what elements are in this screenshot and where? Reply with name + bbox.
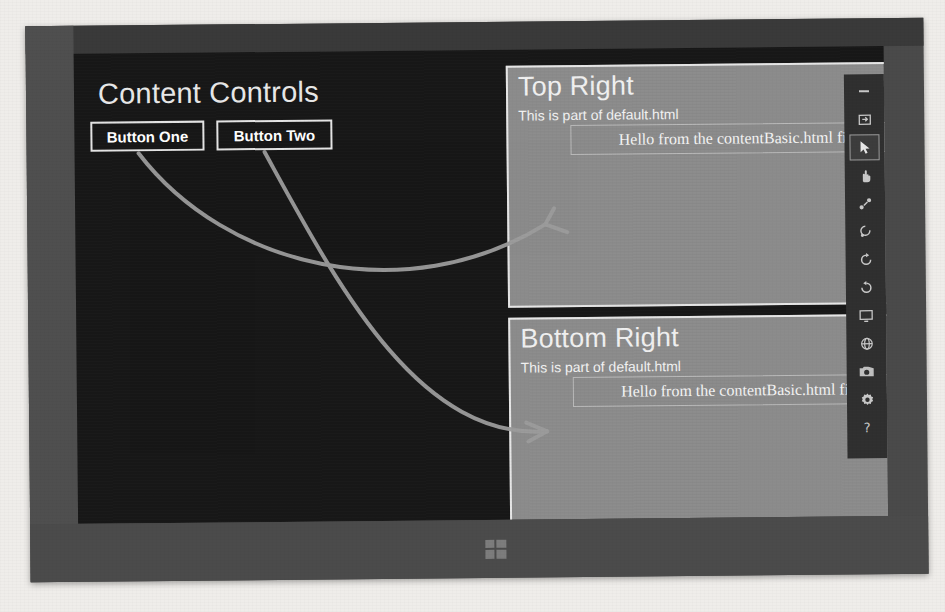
fit-to-screen-icon[interactable] <box>849 106 879 132</box>
panel-top-right-title: Top Right <box>518 70 634 102</box>
panel-bottom-right-content-box: Hello from the contentBasic.html file <box>573 374 888 407</box>
rotate-clockwise-icon[interactable] <box>851 246 881 272</box>
application-surface: Content Controls Button One Button Two T… <box>74 46 888 524</box>
rotate-gesture-icon[interactable] <box>850 218 880 244</box>
network-properties-icon[interactable] <box>851 330 881 356</box>
simulator-toolbar[interactable]: ? <box>844 74 888 458</box>
basic-touch-mode-icon[interactable] <box>850 162 880 188</box>
panel-top-right-subtitle: This is part of default.html <box>518 106 678 124</box>
settings-gear-icon[interactable] <box>852 386 882 412</box>
change-resolution-icon[interactable] <box>851 302 881 328</box>
panel-bottom-right-title: Bottom Right <box>520 322 679 355</box>
panel-bottom-right: Bottom Right This is part of default.htm… <box>508 314 888 524</box>
mouse-pointer-icon[interactable] <box>849 134 879 160</box>
device-bezel-left <box>25 26 78 582</box>
panel-bottom-right-subtitle: This is part of default.html <box>521 358 681 376</box>
left-column: Content Controls Button One Button Two <box>74 50 508 524</box>
panel-top-right-content-box: Hello from the contentBasic.html file <box>570 122 888 155</box>
help-glyph: ? <box>864 421 871 434</box>
help-icon[interactable]: ? <box>852 414 882 440</box>
button-two[interactable]: Button Two <box>216 119 332 150</box>
screenshot-camera-icon[interactable] <box>852 358 882 384</box>
minimize-icon[interactable] <box>849 78 879 104</box>
rotate-counterclockwise-icon[interactable] <box>851 274 881 300</box>
panel-top-right: Top Right This is part of default.html H… <box>506 62 888 308</box>
scanned-page-background: Content Controls Button One Button Two T… <box>0 0 945 612</box>
windows-start-button[interactable] <box>485 540 507 560</box>
button-one[interactable]: Button One <box>90 121 204 152</box>
simulator-device-frame: Content Controls Button One Button Two T… <box>25 18 928 583</box>
pinch-zoom-touch-icon[interactable] <box>850 190 880 216</box>
windows-taskbar <box>30 516 929 583</box>
page-title: Content Controls <box>98 76 319 111</box>
